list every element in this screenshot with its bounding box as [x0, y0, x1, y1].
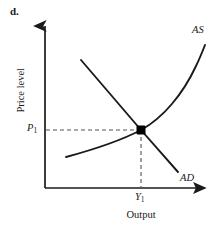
aggregate-demand-curve: [81, 60, 178, 172]
price-level-tick-label: P1: [27, 123, 37, 135]
aggregate-supply-curve: [66, 45, 205, 157]
output-tick-label: Y1: [135, 192, 145, 204]
price-tick-subscript: 1: [33, 126, 37, 135]
aggregate-supply-demand-figure: d. Price level Output P1 Y1 AS AD: [0, 0, 223, 227]
aggregate-supply-label: AS: [192, 25, 204, 36]
diagram-canvas: [0, 0, 223, 227]
x-axis-title: Output: [110, 210, 172, 221]
part-label: d.: [10, 6, 19, 17]
output-tick-subscript: 1: [141, 195, 145, 204]
y-axis-title: Price level: [16, 55, 27, 125]
equilibrium-point-marker: [137, 126, 146, 135]
aggregate-demand-label: AD: [180, 173, 194, 184]
